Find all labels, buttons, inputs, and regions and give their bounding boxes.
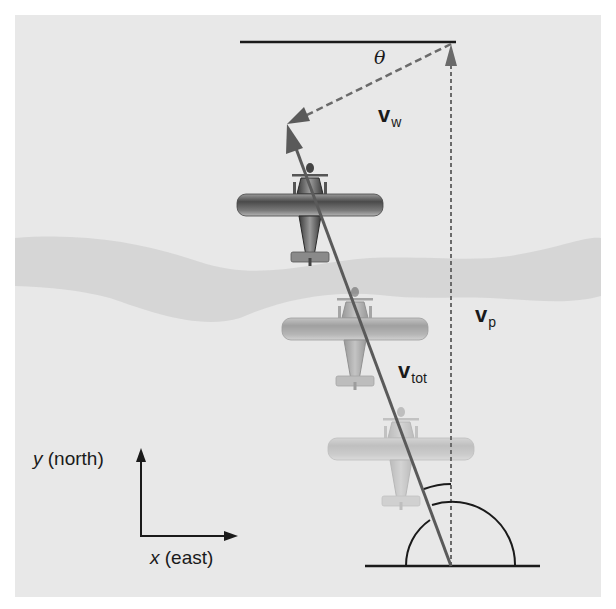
vp-label-main: v [475,302,487,327]
x-axis-text: (east) [160,547,214,568]
vw-label: vw [378,102,401,130]
x-axis-label: x (east) [150,547,213,569]
figure-panel [15,15,601,597]
vtot-label-sub: tot [411,370,427,386]
vtot-label-main: v [398,358,410,383]
y-axis-text: (north) [43,448,104,469]
y-axis-var: y [33,448,43,469]
vp-label: vp [475,302,496,330]
vw-label-sub: w [391,114,401,130]
vp-label-sub: p [488,314,496,330]
theta-label: θ [374,46,385,68]
vtot-label: vtot [398,358,427,386]
y-axis-label: y (north) [33,448,104,470]
x-axis-var: x [150,547,160,568]
relative-velocity-diagram [0,0,616,609]
vw-label-main: v [378,102,390,127]
